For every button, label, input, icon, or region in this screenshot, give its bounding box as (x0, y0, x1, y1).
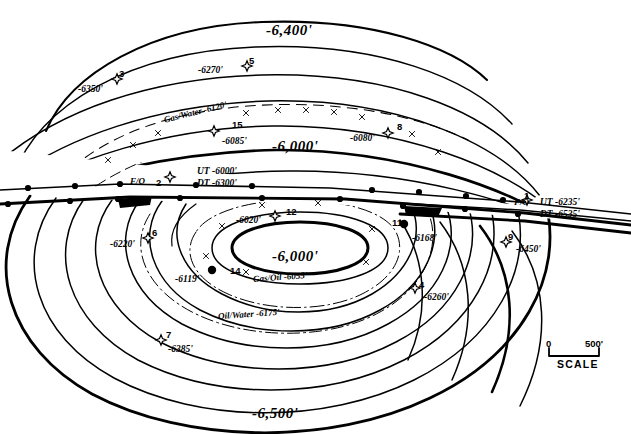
well-symbols (112, 61, 532, 345)
well-number-7: 7 (166, 329, 171, 340)
well-symbol-star[interactable] (165, 172, 175, 182)
well-number-8: 8 (397, 121, 402, 132)
well-number-14: 14 (230, 265, 241, 276)
scale-bar-caption: SCALE (557, 358, 599, 370)
contour-label-c6500: -6,500' (252, 405, 298, 422)
well-number-4: 4 (419, 279, 424, 290)
contour-north-4 (0, 101, 540, 196)
well-depth-label-9: -6450' (516, 244, 541, 254)
well-depth-label-1: UT -6235' (540, 197, 580, 207)
gas-water-contact-north (72, 104, 468, 168)
contour-label-c6000_upper: -6,000' (272, 138, 318, 155)
well-number-5: 5 (249, 55, 254, 66)
well-depth-label-14: -6119' (175, 274, 199, 284)
well-symbol-star[interactable] (209, 126, 219, 136)
contour-rf-3 (480, 226, 510, 392)
structural-contour-map: -6,400'-6,000'-6,000'-6,500'Gas/Water -6… (0, 0, 631, 434)
contour-south-6400 (34, 198, 520, 413)
well-depth-label-15: -6085' (222, 136, 247, 146)
well-number-3: 3 (119, 68, 124, 79)
well-depth-label-11: -6168' (412, 233, 437, 243)
well-depth-label-5: -6270' (198, 65, 223, 75)
contour-label-c6400: -6,400' (266, 22, 312, 39)
well-depth-label-1b: DT -6535' (540, 209, 580, 219)
well-number-15: 15 (232, 119, 243, 130)
well-depth-label-2: UT -6000' (197, 166, 237, 176)
well-depth-label-8: -6080' (350, 133, 375, 143)
well-depth-label-2b: DT -6300' (197, 178, 237, 188)
well-number-1: 1 (524, 190, 529, 201)
well-depth-label-7: -6385' (168, 344, 193, 354)
well-number-6: 6 (152, 227, 157, 238)
well-depth-label-4: -6260' (424, 292, 449, 302)
contour-north-7 (0, 171, 580, 236)
well-depth-label-3: -6350' (78, 84, 103, 94)
well-symbol-filled[interactable] (208, 266, 216, 274)
contour-north-2 (13, 47, 512, 176)
fault-label-fo-left: F/O (130, 176, 145, 186)
well-depth-label-12: -6020' (236, 215, 261, 225)
contour--6000-north (0, 150, 565, 228)
well-number-2: 2 (156, 177, 161, 188)
well-number-11: 11 (392, 217, 402, 228)
gas-water-contact-mid (96, 126, 486, 186)
north-block-contours (0, 22, 580, 236)
map-linework (0, 0, 631, 434)
contour-rf-4 (512, 231, 542, 406)
scale-bar-rule (549, 348, 599, 356)
scale-bar-zero-label: 0 (546, 338, 551, 349)
contour-label-c6000_crest: -6,000' (272, 248, 318, 265)
scale-bar-max-label: 500' (585, 338, 603, 349)
well-depth-label-6: -6220' (110, 239, 135, 249)
well-number-12: 12 (286, 206, 297, 217)
well-number-9: 9 (508, 231, 513, 242)
